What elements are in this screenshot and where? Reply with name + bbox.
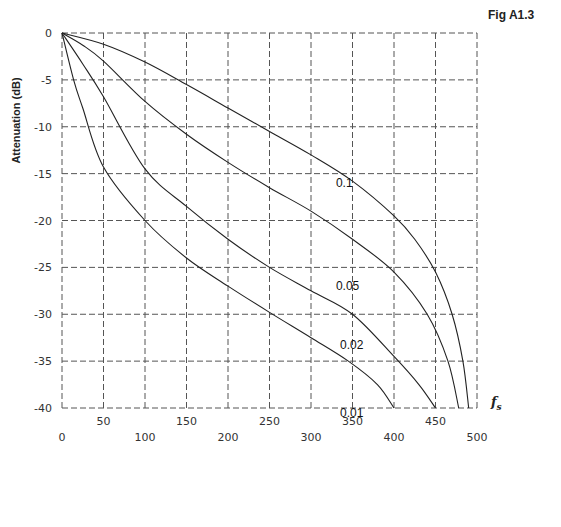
y-axis-label: Attenuation (dB) — [10, 77, 22, 163]
x-tick-label: 250 — [259, 415, 280, 428]
curve-label: 0.1 — [336, 176, 353, 190]
y-tick-label: -5 — [41, 74, 52, 87]
x-axis-label: fs — [490, 394, 502, 412]
y-tick-label: 0 — [45, 27, 52, 40]
y-tick-label: -35 — [34, 355, 52, 368]
attenuation-chart: 0-5-10-15-20-25-30-35-405015025035045001… — [0, 0, 561, 527]
x-tick-label: 200 — [218, 431, 239, 444]
curve-label: 0.02 — [340, 338, 364, 352]
curve-label: 0.05 — [336, 279, 360, 293]
x-tick-label: 100 — [135, 431, 156, 444]
curve-label: 0.01 — [340, 406, 364, 420]
y-tick-label: -30 — [34, 308, 52, 321]
y-tick-label: -40 — [34, 402, 52, 415]
x-tick-label: 150 — [176, 415, 197, 428]
y-tick-label: -10 — [34, 121, 52, 134]
x-tick-label: 450 — [425, 415, 446, 428]
y-tick-label: -15 — [34, 168, 52, 181]
x-tick-label: 50 — [97, 415, 111, 428]
y-tick-label: -25 — [34, 261, 52, 274]
y-tick-label: -20 — [34, 215, 52, 228]
x-tick-label: 400 — [384, 431, 405, 444]
grid — [62, 33, 477, 408]
x-tick-label: 0 — [59, 431, 66, 444]
x-tick-label: 500 — [467, 431, 488, 444]
x-tick-label: 300 — [301, 431, 322, 444]
